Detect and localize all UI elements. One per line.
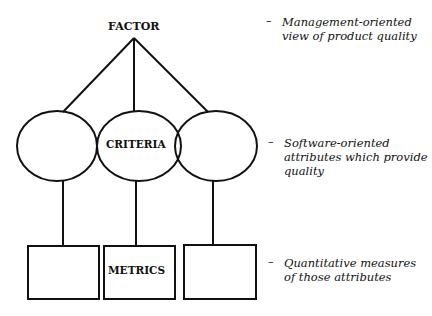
factor-label: FACTOR <box>108 20 159 33</box>
metrics-note-line: Quantitative measures <box>284 256 416 270</box>
metrics-label: METRICS <box>108 264 165 276</box>
criteria-ellipse-left <box>17 111 97 181</box>
factor-note: Management-oriented view of product qual… <box>282 15 417 43</box>
criteria-note: Software-oriented attributes which provi… <box>284 136 428 178</box>
connector-factor-criteria-right <box>134 38 208 112</box>
criteria-note-line: Software-oriented <box>284 136 428 150</box>
criteria-note-dash: – <box>268 135 274 148</box>
metrics-box-left <box>28 246 99 299</box>
metrics-note-dash: – <box>268 255 274 268</box>
factor-note-line: view of product quality <box>282 29 417 43</box>
metrics-note: Quantitative measures of those attribute… <box>284 256 416 284</box>
criteria-note-line: attributes which provide <box>284 150 428 164</box>
metrics-note-line: of those attributes <box>284 270 416 284</box>
criteria-label: CRITERIA <box>106 138 166 150</box>
criteria-note-line: quality <box>284 164 428 178</box>
connector-factor-criteria-left <box>63 38 134 112</box>
criteria-ellipse-right <box>175 111 257 181</box>
factor-note-line: Management-oriented <box>282 15 417 29</box>
factor-note-dash: – <box>266 14 272 27</box>
metrics-box-right <box>184 245 256 299</box>
